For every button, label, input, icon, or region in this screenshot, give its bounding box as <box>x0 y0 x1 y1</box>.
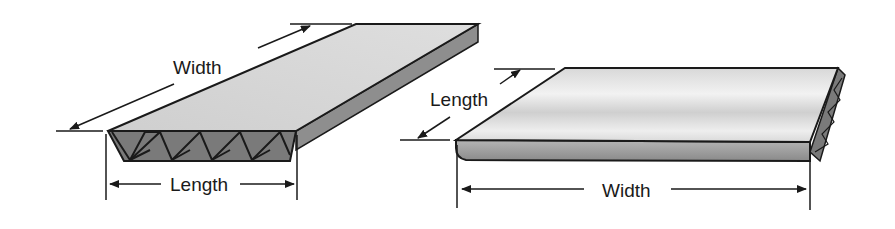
right-length-label: Length <box>430 89 488 110</box>
right-board-top-face <box>456 68 838 142</box>
right-board-front-face <box>456 140 810 161</box>
right-width-label: Width <box>602 180 651 201</box>
left-length-label: Length <box>170 174 228 195</box>
right-board <box>456 68 845 161</box>
left-width-label: Width <box>173 57 222 78</box>
diagram-svg: Width Length Length <box>0 0 895 229</box>
corrugated-board-diagram: Width Length Length <box>0 0 895 229</box>
left-board-top-face <box>108 24 478 131</box>
